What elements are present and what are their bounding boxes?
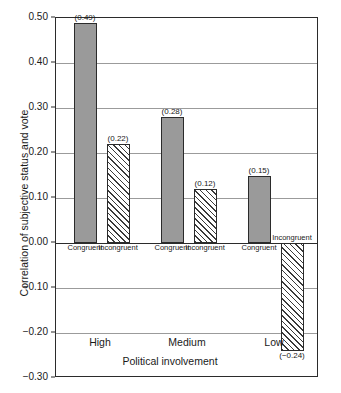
- bar-value-label: (0.22): [108, 135, 129, 143]
- gridline: [56, 288, 317, 289]
- bar-value-label: (0.15): [249, 167, 270, 175]
- bar-low-incongruent: (−0.24)Incongruent: [281, 243, 304, 351]
- y-axis-tick-label: −0.30: [23, 372, 48, 382]
- y-axis-title: Correlation of subjective status and vot…: [18, 88, 30, 318]
- bar-category-label: Congruent: [241, 244, 276, 252]
- y-axis-tick-label: −0.20: [23, 327, 48, 337]
- group-label-high: High: [89, 337, 111, 348]
- y-axis-tick-label: 0.20: [29, 147, 48, 157]
- group-label-medium: Medium: [168, 337, 205, 348]
- bar-category-label: Incongruent: [98, 244, 138, 252]
- bar-high-incongruent: (0.22)Incongruent: [107, 144, 130, 243]
- x-axis-title: Political involvement: [122, 355, 217, 367]
- bar-category-label: Incongruent: [185, 244, 225, 252]
- y-axis-tick-label: 0.00: [29, 237, 48, 247]
- bar-medium-incongruent: (0.12)Incongruent: [194, 189, 217, 243]
- bar-category-label: Incongruent: [272, 234, 312, 242]
- chart-figure: 0.500.400.300.200.100.00−0.10−0.20−0.30 …: [0, 0, 341, 393]
- group-label-low: Low: [264, 337, 283, 348]
- bar-high-congruent: (0.49)Congruent: [74, 23, 97, 244]
- plot-area: (0.49)Congruent(0.22)Incongruent(0.28)Co…: [55, 17, 318, 377]
- bar-medium-congruent: (0.28)Congruent: [161, 117, 184, 243]
- bar-value-label: (0.28): [162, 108, 183, 116]
- bar-value-label: (0.49): [75, 14, 96, 22]
- bar-value-label: (−0.24): [279, 352, 305, 360]
- bar-low-congruent: (0.15)Congruent: [248, 176, 271, 244]
- y-axis-tick-label: 0.40: [29, 57, 48, 67]
- y-axis-tick-label: 0.50: [29, 12, 48, 22]
- gridline: [56, 333, 317, 334]
- y-axis-tick-label: 0.10: [29, 192, 48, 202]
- bar-value-label: (0.12): [195, 180, 216, 188]
- y-axis-tick-label: 0.30: [29, 102, 48, 112]
